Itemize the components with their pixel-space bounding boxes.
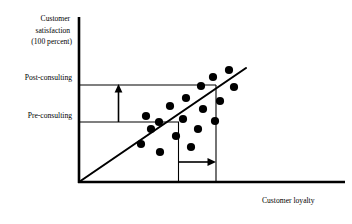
scatter-point <box>187 143 195 151</box>
satisfaction-gain-arrow <box>115 84 123 122</box>
plot-canvas: Customer satisfaction (100 percent) Post… <box>0 0 352 224</box>
scatter-point <box>179 115 187 123</box>
scatter-point <box>216 97 224 105</box>
y-axis-label: Customer satisfaction (100 percent) <box>31 14 72 46</box>
scatter-point-group <box>137 66 238 156</box>
y-axis-label-line-3: (100 percent) <box>31 37 72 46</box>
scatter-point <box>211 117 219 125</box>
x-axis-label: Customer loyalty <box>262 196 315 205</box>
post-consulting-label: Post-consulting <box>25 73 72 82</box>
scatter-point <box>172 132 180 140</box>
scatter-point <box>194 125 202 133</box>
loyalty-gain-arrow <box>179 158 216 166</box>
scatter-diagram-figure: Customer satisfaction (100 percent) Post… <box>0 0 352 224</box>
scatter-point <box>166 102 174 110</box>
y-axis-label-line-2: satisfaction <box>36 26 71 35</box>
scatter-point <box>230 83 238 91</box>
scatter-point <box>199 105 207 113</box>
scatter-point <box>137 140 145 148</box>
scatter-point <box>155 118 163 126</box>
scatter-point <box>225 66 233 74</box>
scatter-point <box>156 148 164 156</box>
scatter-point <box>209 73 217 81</box>
scatter-point <box>197 82 205 90</box>
y-axis-label-line-1: Customer <box>41 14 71 23</box>
pre-consulting-label: Pre-consulting <box>28 111 72 120</box>
scatter-point <box>147 125 155 133</box>
scatter-point <box>182 94 190 102</box>
scatter-point <box>142 112 150 120</box>
